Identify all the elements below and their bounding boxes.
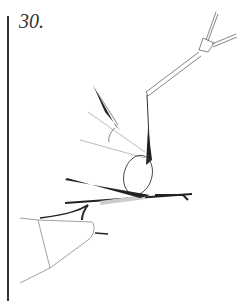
vise-jaw-icon	[20, 218, 94, 283]
hook-icon	[40, 178, 192, 234]
feather-wing-icon	[80, 85, 145, 158]
fly-tying-illustration	[0, 0, 251, 301]
bobbin-holder-icon	[146, 12, 237, 96]
thread-icon	[146, 95, 152, 165]
